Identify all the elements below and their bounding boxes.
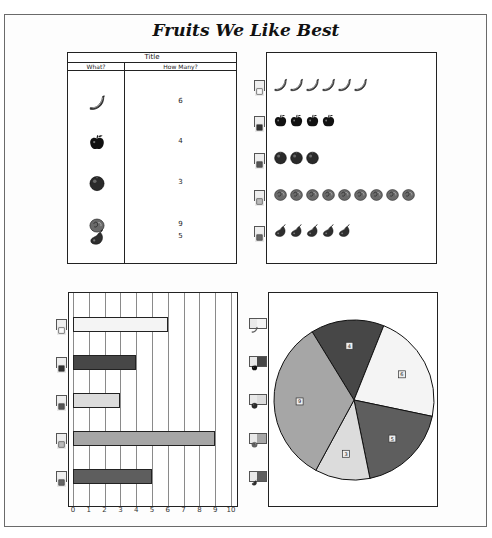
bar-pear[interactable] — [73, 469, 152, 484]
pictograph-legend-orange-icon[interactable] — [254, 153, 265, 164]
table-cell-value[interactable]: 9 — [125, 220, 236, 228]
x-tick-label: 10 — [225, 506, 237, 514]
pie-slice-label: 6 — [400, 371, 403, 377]
pie-legend-pear-icon[interactable] — [249, 471, 267, 482]
pear-icon — [337, 223, 352, 238]
pie-slice-label: 3 — [344, 451, 347, 457]
x-tick-label: 5 — [146, 506, 158, 514]
pear-icon — [289, 223, 304, 238]
gridline — [199, 293, 200, 506]
pie-chart-panel: 46539 — [268, 292, 438, 507]
x-tick-label: 7 — [178, 506, 190, 514]
x-tick-label: 0 — [67, 506, 79, 514]
apple-icon — [289, 113, 304, 128]
peach-icon — [321, 187, 336, 202]
pie-legend-orange-icon[interactable] — [249, 394, 267, 405]
peach-icon — [337, 187, 352, 202]
peach-icon — [273, 187, 288, 202]
banana-icon — [273, 77, 288, 92]
pie-legend-apple-icon[interactable] — [249, 356, 267, 367]
gridline — [215, 293, 216, 506]
bar-legend-peach-icon[interactable] — [56, 433, 67, 444]
pictograph-legend-pear-icon[interactable] — [254, 226, 265, 237]
pie-slice-label: 4 — [348, 343, 351, 349]
table-row[interactable]: 4 — [68, 133, 236, 153]
banana-icon — [289, 77, 304, 92]
apple-icon — [273, 113, 288, 128]
pie-slice-label: 9 — [298, 398, 301, 404]
x-tick-label: 6 — [162, 506, 174, 514]
x-tick-label: 9 — [209, 506, 221, 514]
apple-icon — [321, 113, 336, 128]
table-cell-value[interactable]: 6 — [125, 97, 236, 105]
pictograph-legend-peach-icon[interactable] — [254, 190, 265, 201]
bar-legend-apple-icon[interactable] — [56, 357, 67, 368]
banana-icon — [321, 77, 336, 92]
table-row[interactable]: 6 — [68, 93, 236, 113]
table-row[interactable]: 3 — [68, 174, 236, 194]
table-cell-value[interactable]: 4 — [125, 137, 236, 145]
column-header-how-many[interactable]: How Many? — [125, 63, 236, 71]
table-cell-value[interactable]: 5 — [125, 232, 236, 240]
pie-legend-banana-icon[interactable] — [249, 318, 267, 329]
peach-icon — [289, 187, 304, 202]
bar-legend-orange-icon[interactable] — [56, 395, 67, 406]
column-header-what[interactable]: What? — [68, 63, 124, 71]
banana-icon — [353, 77, 368, 92]
bar-orange[interactable] — [73, 393, 120, 408]
peach-icon — [401, 187, 416, 202]
gridline — [168, 293, 169, 506]
x-tick-label: 8 — [193, 506, 205, 514]
banana-icon — [88, 93, 106, 111]
peach-icon — [305, 187, 320, 202]
table-cell-value[interactable]: 3 — [125, 178, 236, 186]
orange-icon — [273, 150, 288, 165]
banana-icon — [305, 77, 320, 92]
x-tick-label: 1 — [83, 506, 95, 514]
apple-icon — [88, 133, 106, 151]
pear-icon — [305, 223, 320, 238]
pie-chart: 46539 — [269, 293, 437, 506]
pie-legend-peach-icon[interactable] — [249, 433, 267, 444]
pictograph-legend-apple-icon[interactable] — [254, 116, 265, 127]
pictograph-legend-banana-icon[interactable] — [254, 80, 265, 91]
pear-icon — [273, 223, 288, 238]
bar-legend-banana-icon[interactable] — [56, 319, 67, 330]
peach-icon — [353, 187, 368, 202]
data-table: Title What? How Many? 64395 — [67, 52, 237, 264]
apple-icon — [305, 113, 320, 128]
x-tick-label: 4 — [130, 506, 142, 514]
orange-icon — [305, 150, 320, 165]
gridline — [231, 293, 232, 506]
peach-icon — [385, 187, 400, 202]
x-tick-label: 3 — [114, 506, 126, 514]
pear-icon — [321, 223, 336, 238]
x-tick-label: 2 — [99, 506, 111, 514]
pear-icon — [88, 228, 106, 246]
gridline — [184, 293, 185, 506]
bar-peach[interactable] — [73, 431, 215, 446]
peach-icon — [369, 187, 384, 202]
bar-chart-panel — [68, 292, 238, 507]
banana-icon — [337, 77, 352, 92]
bar-banana[interactable] — [73, 317, 168, 332]
bar-apple[interactable] — [73, 355, 136, 370]
orange-icon — [289, 150, 304, 165]
pie-slice-label: 5 — [391, 436, 394, 442]
bar-legend-pear-icon[interactable] — [56, 471, 67, 482]
table-row[interactable]: 5 — [68, 228, 236, 248]
orange-icon — [88, 174, 106, 192]
table-title[interactable]: Title — [68, 53, 236, 63]
page-title: Fruits We Like Best — [0, 20, 492, 40]
